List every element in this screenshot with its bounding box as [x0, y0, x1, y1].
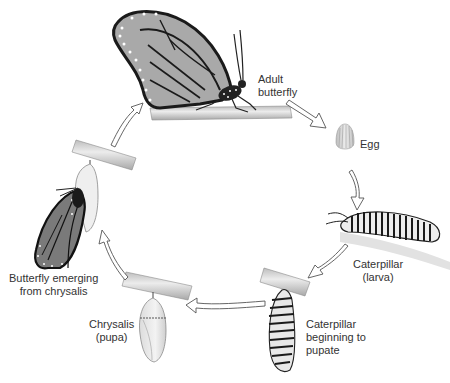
chrysalis-pupa-illustration: [122, 272, 192, 362]
emerging-butterfly-illustration: [35, 140, 136, 268]
label-chrysalis-pupa: Chrysalis (pupa): [89, 318, 134, 344]
arrow-emerging-to-adult: [111, 103, 143, 147]
label-egg: Egg: [360, 138, 380, 151]
arrow-adult-to-egg: [286, 100, 326, 128]
egg-illustration: [336, 124, 354, 149]
label-butterfly-emerging: Butterfly emerging from chrysalis: [9, 272, 98, 298]
label-adult-butterfly: Adult butterfly: [258, 73, 297, 99]
arrow-pupate-to-pupa: [186, 298, 265, 313]
arrow-pupa-to-emerging: [99, 230, 128, 280]
label-caterpillar-pupate: Caterpillar beginning to pupate: [306, 318, 366, 357]
butterfly-life-cycle-diagram: Adult butterfly Egg Caterpillar (larva) …: [0, 0, 450, 383]
pre-pupa-illustration: [260, 268, 310, 372]
arrow-larva-to-pupate: [308, 244, 348, 278]
arrow-egg-to-larva: [349, 170, 364, 210]
label-caterpillar-larva: Caterpillar (larva): [353, 258, 403, 284]
